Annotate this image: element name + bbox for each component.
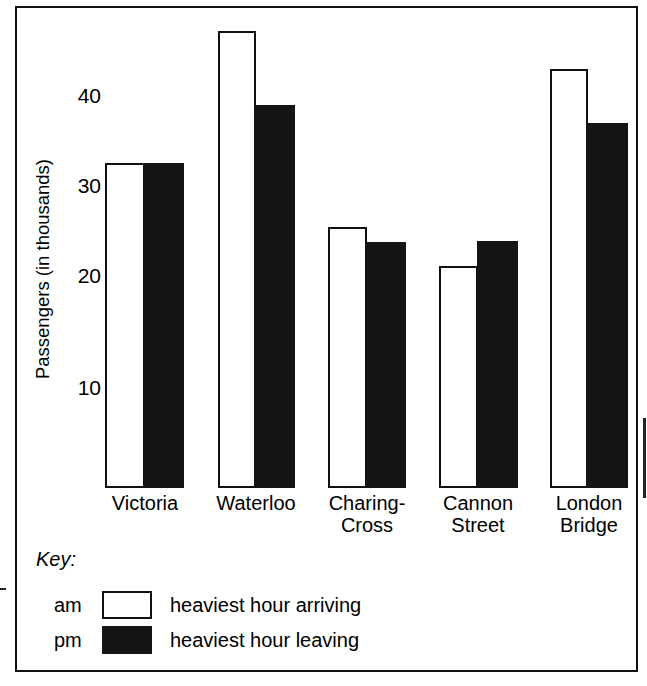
key-swatch-am-icon xyxy=(102,591,152,619)
key-text-pm: heaviest hour leaving xyxy=(170,629,359,652)
plot-area: Passengers (in thousands) 40 30 20 10 Vi… xyxy=(0,0,647,686)
bar-london-bridge-pm[interactable] xyxy=(587,123,628,488)
category-label-waterloo: Waterloo xyxy=(195,492,317,514)
bar-victoria-am[interactable] xyxy=(105,163,145,488)
category-label-charing-cross: Charing- Cross xyxy=(306,492,428,536)
bar-chart-figure: Passengers (in thousands) 40 30 20 10 Vi… xyxy=(0,0,647,686)
bar-cannon-street-am[interactable] xyxy=(439,266,478,488)
y-tick-label-40: 40 xyxy=(55,85,101,106)
bar-cannon-street-pm[interactable] xyxy=(477,241,518,488)
bar-london-bridge-am[interactable] xyxy=(550,69,588,488)
key-text-am: heaviest hour arriving xyxy=(170,594,361,617)
y-tick-label-20: 20 xyxy=(55,265,101,286)
y-tick-label-30: 30 xyxy=(55,175,101,196)
bar-waterloo-pm[interactable] xyxy=(255,105,295,488)
category-label-london-bridge: London Bridge xyxy=(528,492,647,536)
bar-charing-cross-am[interactable] xyxy=(328,227,367,488)
bar-charing-cross-pm[interactable] xyxy=(366,242,406,488)
y-axis-title: Passengers (in thousands) xyxy=(32,134,54,404)
bar-waterloo-am[interactable] xyxy=(218,31,256,488)
key-title: Key: xyxy=(36,548,76,571)
key-swatch-pm-icon xyxy=(102,626,152,654)
key-abbr-pm: pm xyxy=(54,629,96,652)
bar-victoria-pm[interactable] xyxy=(144,163,184,488)
category-label-cannon-street: Cannon Street xyxy=(417,492,539,536)
category-label-victoria: Victoria xyxy=(84,492,206,514)
key-abbr-am: am xyxy=(54,594,96,617)
y-tick-label-10: 10 xyxy=(55,377,101,398)
